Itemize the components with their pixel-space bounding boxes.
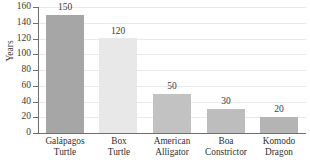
y-axis-tick-label: 100 (0, 49, 31, 59)
bar (99, 38, 137, 133)
y-axis-tick-label: 60 (0, 81, 31, 91)
bar-value-label: 50 (150, 81, 194, 91)
bar (153, 94, 191, 133)
bar-chart: Years 020406080100120140160 150120503020… (0, 0, 310, 167)
x-axis-category-label-line: Komodo (252, 136, 306, 147)
bar-value-label: 20 (257, 104, 301, 114)
x-axis-category-label: KomodoDragon (252, 136, 306, 158)
cut-off-title-remnant (60, 0, 308, 1)
y-axis-tick-label: 20 (0, 112, 31, 122)
bar-value-label: 150 (43, 2, 87, 12)
x-axis-category-label-line: Constrictor (199, 147, 253, 158)
x-axis-line (38, 133, 306, 134)
bar (207, 109, 245, 133)
x-axis-category-label-line: American (145, 136, 199, 147)
bar (260, 117, 298, 133)
x-axis-category-label-line: Dragon (252, 147, 306, 158)
y-axis-tick-label: 140 (0, 18, 31, 28)
y-axis-tick-label: 40 (0, 97, 31, 107)
plot-area (38, 7, 306, 133)
y-axis-tick-label: 120 (0, 34, 31, 44)
bar-value-label: 30 (204, 96, 248, 106)
bar (46, 15, 84, 133)
x-axis-category-label-line: Turtle (38, 147, 92, 158)
y-axis-tick-label: 160 (0, 2, 31, 12)
bar-value-label: 120 (96, 26, 140, 36)
x-axis-category-label-line: Turtle (92, 147, 146, 158)
y-axis-tick-label: 80 (0, 65, 31, 75)
y-axis-tick-label: 0 (0, 128, 31, 138)
x-axis-category-label: BoxTurtle (92, 136, 146, 158)
x-axis-category-label-line: Galápagos (38, 136, 92, 147)
x-axis-category-label: BoaConstrictor (199, 136, 253, 158)
x-axis-category-label-line: Boa (199, 136, 253, 147)
x-axis-category-label: AmericanAlligator (145, 136, 199, 158)
x-axis-category-label-line: Box (92, 136, 146, 147)
x-axis-category-label: GalápagosTurtle (38, 136, 92, 158)
x-axis-category-label-line: Alligator (145, 147, 199, 158)
